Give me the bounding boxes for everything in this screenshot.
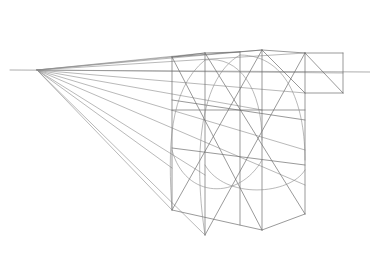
- construction-line: [172, 50, 262, 57]
- perspective-ray: [37, 70, 205, 235]
- box-construction-lines: [172, 50, 343, 235]
- perspective-ray: [37, 53, 305, 70]
- perspective-ray: [37, 70, 305, 185]
- construction-line: [172, 148, 305, 165]
- perspective-drawing: [0, 0, 370, 259]
- vanishing-rays: [37, 50, 343, 235]
- perspective-ray: [37, 70, 205, 175]
- construction-line: [262, 214, 305, 230]
- construction-line: [172, 57, 262, 230]
- perspective-ray: [37, 53, 205, 70]
- perspective-ray: [37, 70, 305, 93]
- construction-line: [172, 50, 262, 210]
- construction-line: [262, 50, 305, 53]
- ellipse-arc: [205, 165, 305, 190]
- construction-line: [205, 52, 240, 53]
- construction-line: [205, 53, 305, 235]
- ellipse-arcs: [170, 55, 305, 235]
- perspective-ray: [37, 70, 172, 210]
- perspective-ray: [37, 50, 262, 70]
